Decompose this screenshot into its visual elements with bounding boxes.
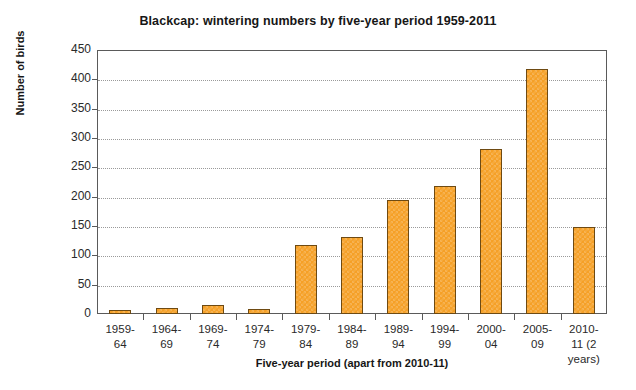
x-axis-tick-label: 1989- 94: [375, 322, 421, 352]
bar: [480, 149, 502, 314]
chart-figure: Blackcap: wintering numbers by five-year…: [0, 0, 636, 390]
bar-series: [97, 50, 607, 314]
y-axis-tick-label: 0: [45, 306, 91, 320]
x-axis-tick-label: 2005- 09: [514, 322, 560, 352]
y-axis-tick-label: 200: [45, 189, 91, 203]
x-axis-tick-mark: [375, 314, 376, 320]
y-axis-tick-labels: 050100150200250300350400450: [43, 50, 91, 314]
x-axis-tick-mark: [561, 314, 562, 320]
x-axis-tick-mark: [282, 314, 283, 320]
x-axis-tick-mark: [190, 314, 191, 320]
x-axis-tick-label: 1964- 69: [143, 322, 189, 352]
y-axis-tick-label: 100: [45, 247, 91, 261]
x-axis-tick-mark: [468, 314, 469, 320]
x-axis-tick-label: 1979- 84: [282, 322, 328, 352]
chart-title: Blackcap: wintering numbers by five-year…: [0, 14, 636, 28]
bar: [434, 186, 456, 314]
x-axis-tick-mark: [422, 314, 423, 320]
y-axis-tick-label: 150: [45, 218, 91, 232]
y-axis-tick-label: 450: [45, 42, 91, 56]
x-axis-tick-label: 2000- 04: [468, 322, 514, 352]
x-axis-tick-label: 1984- 89: [329, 322, 375, 352]
bar: [202, 305, 224, 314]
bar: [295, 245, 317, 314]
bar: [341, 237, 363, 314]
y-axis-title: Number of birds: [14, 8, 32, 138]
y-axis-tick-label: 50: [45, 277, 91, 291]
bar: [526, 69, 548, 314]
x-axis-tick-marks: [97, 314, 607, 320]
x-axis-tick-mark: [236, 314, 237, 320]
x-axis-tick-label: 1994- 99: [422, 322, 468, 352]
x-axis-tick-mark: [143, 314, 144, 320]
x-axis-tick-label: 1969- 74: [190, 322, 236, 352]
x-axis-tick-mark: [329, 314, 330, 320]
x-axis-tick-mark: [514, 314, 515, 320]
y-axis-tick-label: 300: [45, 130, 91, 144]
y-axis-tick-label: 400: [45, 71, 91, 85]
bar: [573, 227, 595, 314]
x-axis-tick-label: 1974- 79: [236, 322, 282, 352]
y-axis-tick-label: 250: [45, 159, 91, 173]
y-axis-tick-label: 350: [45, 101, 91, 115]
x-axis-title: Five-year period (apart from 2010-11): [97, 357, 607, 369]
bar: [387, 200, 409, 314]
x-axis-tick-label: 1959- 64: [97, 322, 143, 352]
